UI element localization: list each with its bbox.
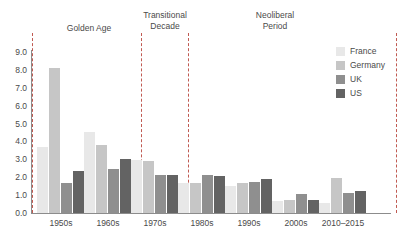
bar: [49, 68, 60, 213]
bar: [225, 186, 236, 213]
bar: [308, 200, 319, 213]
legend-label: UK: [350, 75, 362, 84]
bar: [355, 191, 366, 213]
bar: [131, 160, 142, 213]
bar: [331, 178, 342, 213]
bar: [296, 194, 307, 213]
legend-label: France: [350, 47, 376, 56]
y-axis-tick-label: 6.0: [0, 101, 27, 110]
legend-item[interactable]: Germany: [336, 61, 385, 70]
bar: [84, 132, 95, 213]
legend-item[interactable]: France: [336, 47, 385, 56]
y-axis-tick-label: 0.0: [0, 209, 27, 218]
bar: [96, 145, 107, 213]
bar: [249, 182, 260, 213]
y-axis-tick-label: 8.0: [0, 65, 27, 74]
legend-label: US: [350, 89, 362, 98]
y-axis-tick-label: 4.0: [0, 137, 27, 146]
annotation-golden-age: Golden Age: [44, 23, 134, 34]
legend-item[interactable]: UK: [336, 75, 385, 84]
legend-item[interactable]: US: [336, 89, 385, 98]
bar: [108, 169, 119, 213]
legend-swatch-icon: [336, 61, 345, 70]
bar: [37, 147, 48, 213]
bar: [155, 175, 166, 213]
bar: [120, 159, 131, 213]
annotation-neoliberal-period: Neoliberal Period: [232, 10, 318, 32]
legend: FranceGermanyUKUS: [336, 47, 385, 98]
x-axis-tick-label: 2010–2015: [309, 218, 377, 228]
bar: [214, 176, 225, 213]
legend-swatch-icon: [336, 75, 345, 84]
annotation-transitional-decade: Transitional Decade: [126, 10, 204, 32]
bar: [319, 203, 330, 213]
bar: [343, 193, 354, 213]
bar: [202, 175, 213, 213]
bar: [261, 179, 272, 213]
x-axis-line: [31, 213, 391, 214]
y-axis-tick-label: 2.0: [0, 173, 27, 182]
bar: [73, 171, 84, 213]
bar: [61, 183, 72, 213]
bar: [143, 161, 154, 213]
legend-swatch-icon: [336, 89, 345, 98]
legend-label: Germany: [350, 61, 385, 70]
y-axis-tick-label: 9.0: [0, 48, 27, 57]
bar: [178, 183, 189, 213]
bar: [284, 200, 295, 213]
bar-chart: Golden Age Transitional Decade Neolibera…: [0, 0, 415, 242]
y-axis-tick-label: 3.0: [0, 155, 27, 164]
y-axis-tick-label: 5.0: [0, 119, 27, 128]
bar: [167, 175, 178, 213]
y-axis-tick-label: 7.0: [0, 83, 27, 92]
legend-swatch-icon: [336, 47, 345, 56]
bar: [237, 183, 248, 213]
bar: [272, 201, 283, 213]
bar: [190, 183, 201, 213]
y-axis-tick-label: 1.0: [0, 191, 27, 200]
